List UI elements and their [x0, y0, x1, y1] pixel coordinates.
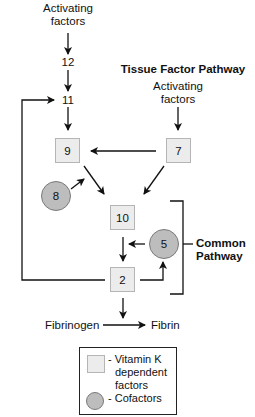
factor-2-box: 2: [110, 267, 135, 292]
label-line: Pathway: [196, 250, 246, 263]
fibrin-label: Fibrin: [151, 319, 180, 332]
factor-5-circle: 5: [149, 229, 179, 259]
label-line: factors: [145, 93, 211, 106]
factor-7-box: 7: [166, 138, 191, 163]
legend-vitamin-k-label-3: factors: [115, 379, 148, 392]
label-line: Common: [196, 237, 246, 250]
label-line: Activating: [35, 2, 101, 15]
legend-vitamin-k-label: - Vitamin K: [108, 353, 162, 366]
label-line: factors: [35, 15, 101, 28]
factor-9-box: 9: [55, 138, 80, 163]
factor-8-circle: 8: [41, 181, 71, 211]
factor-10-box: 10: [110, 205, 135, 230]
legend-circle-swatch: [86, 392, 104, 410]
intrinsic-activating-label: Activating factors: [35, 2, 101, 28]
legend-square-swatch: [87, 355, 105, 373]
common-pathway-label: Common Pathway: [196, 237, 246, 263]
legend-cofactors-label: - Cofactors: [108, 392, 162, 405]
fibrinogen-label: Fibrinogen: [45, 319, 99, 332]
factor-11-label: 11: [55, 94, 81, 107]
tissue-factor-activating-label: Activating factors: [145, 80, 211, 106]
factor-12-label: 12: [55, 56, 81, 69]
label-line: Activating: [145, 80, 211, 93]
tissue-factor-pathway-title: Tissue Factor Pathway: [118, 63, 248, 76]
legend-vitamin-k-label-2: dependent: [115, 366, 167, 379]
legend: - Vitamin K dependent factors - Cofactor…: [79, 347, 177, 415]
